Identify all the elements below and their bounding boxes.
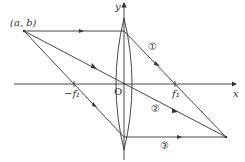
ray-3-arrow-incident xyxy=(92,102,97,107)
ray-2-label: ② xyxy=(151,103,160,114)
ray-3-label: ③ xyxy=(160,140,169,151)
image-point xyxy=(225,136,227,138)
ray-2-arrow-incident xyxy=(91,63,97,69)
focal-label-left: −f₁ xyxy=(64,88,80,99)
focal-label-right: f₁ xyxy=(171,88,180,99)
ray-1-label: ① xyxy=(148,41,157,52)
ray-2-arrow-refracted xyxy=(172,108,178,113)
object-point-label: (a, b) xyxy=(10,17,37,28)
object-point xyxy=(23,30,25,32)
ray-3-arrow-refracted xyxy=(177,135,182,139)
x-axis-label: x xyxy=(233,88,239,99)
y-axis-label: y xyxy=(114,1,121,12)
ray-1-arrow-incident xyxy=(79,29,84,33)
ray-1-arrow-refracted xyxy=(154,61,160,66)
lens-diagram: (a, b) y x O −f₁ f₁ ① ② ③ xyxy=(0,0,245,162)
origin-label: O xyxy=(114,86,122,97)
